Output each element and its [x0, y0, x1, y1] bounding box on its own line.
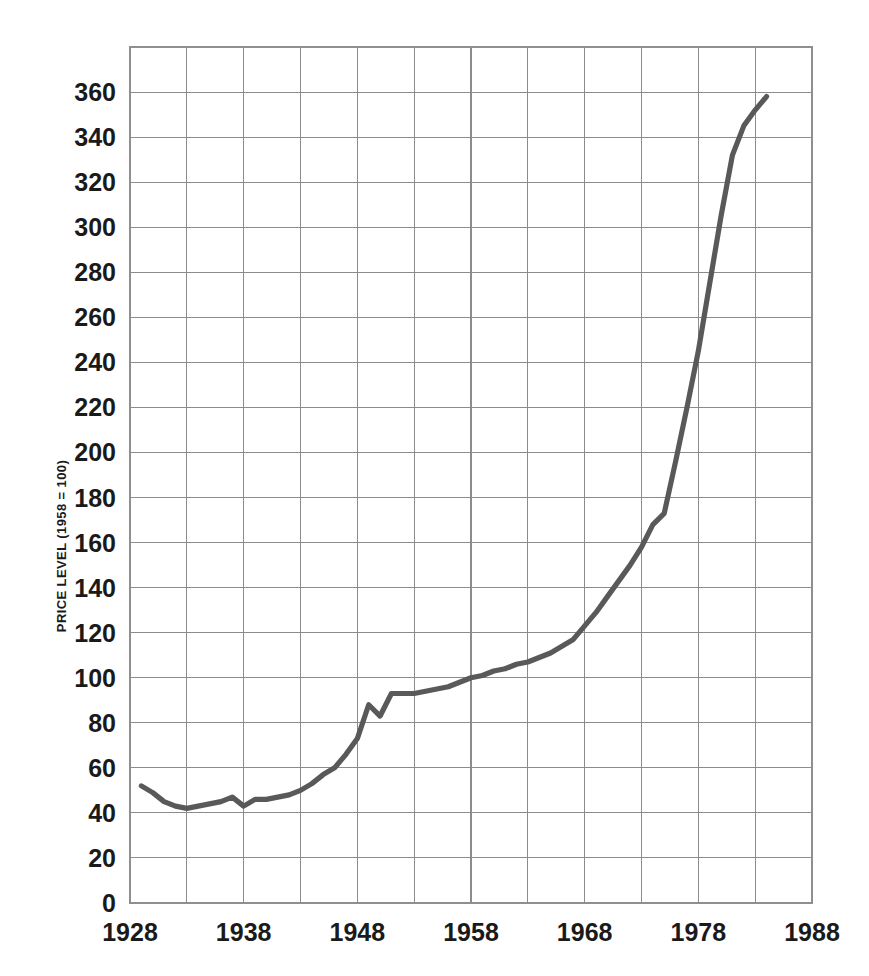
y-tick-label: 280: [74, 258, 116, 286]
y-tick-label: 320: [74, 168, 116, 196]
y-tick-label: 300: [74, 213, 116, 241]
x-tick-label: 1938: [216, 918, 272, 946]
y-tick-label: 40: [88, 799, 116, 827]
y-tick-label: 60: [88, 754, 116, 782]
price-level-line-chart: 0204060801001201401601802002202402602803…: [0, 0, 869, 976]
y-tick-label: 160: [74, 529, 116, 557]
y-tick-label: 200: [74, 438, 116, 466]
x-tick-label: 1978: [671, 918, 727, 946]
y-tick-label: 140: [74, 574, 116, 602]
x-tick-label: 1988: [784, 918, 840, 946]
y-tick-label: 0: [102, 889, 116, 917]
x-tick-label: 1928: [102, 918, 158, 946]
chart-canvas: 0204060801001201401601802002202402602803…: [0, 0, 869, 976]
x-tick-label: 1968: [557, 918, 613, 946]
y-axis-title: PRICE LEVEL (1958 = 100): [54, 460, 69, 632]
y-tick-label: 340: [74, 123, 116, 151]
y-tick-label: 180: [74, 484, 116, 512]
x-tick-label: 1958: [443, 918, 499, 946]
y-tick-label: 360: [74, 78, 116, 106]
x-tick-label: 1948: [330, 918, 386, 946]
y-tick-label: 240: [74, 348, 116, 376]
y-tick-label: 100: [74, 664, 116, 692]
y-tick-label: 20: [88, 844, 116, 872]
y-tick-label: 120: [74, 619, 116, 647]
y-tick-label: 220: [74, 393, 116, 421]
y-tick-label: 260: [74, 303, 116, 331]
y-tick-label: 80: [88, 709, 116, 737]
